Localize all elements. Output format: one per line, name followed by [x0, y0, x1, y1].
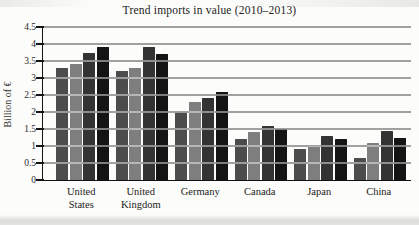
y-tick-label-3.5: 3.5	[10, 55, 36, 67]
bar-japan-2010	[294, 149, 306, 180]
y-tick-mark-2.5	[36, 94, 44, 96]
x-tick-label-line: United	[115, 185, 168, 198]
bar-united-kingdom-2012	[143, 47, 155, 180]
bar-china-2011	[367, 143, 379, 180]
bar-germany-2012	[202, 98, 214, 180]
bar-group-china	[354, 131, 407, 180]
bars-row	[43, 27, 411, 180]
bar-canada-2013	[275, 129, 287, 180]
x-tick-label-united-kingdom: UnitedKingdom	[115, 185, 168, 211]
x-tick-label-line: Germany	[174, 185, 227, 198]
x-axis-labels: UnitedStatesUnitedKingdomGermanyCanadaJa…	[42, 185, 410, 211]
x-tick-label-line: United	[55, 185, 108, 198]
bar-united-states-2013	[97, 47, 109, 180]
y-tick-label-0: 0	[10, 174, 36, 186]
y-tick-mark-0.5	[36, 162, 44, 164]
bar-china-2010	[354, 158, 366, 180]
bar-japan-2013	[335, 139, 347, 180]
x-tick-label-line: Canada	[234, 185, 287, 198]
bar-japan-2012	[321, 136, 333, 180]
y-tick-mark-0	[36, 179, 44, 181]
bar-group-japan	[294, 136, 347, 180]
y-tick-mark-3	[36, 77, 44, 79]
y-tick-mark-4.5	[36, 26, 44, 28]
x-tick-label-line: Japan	[293, 185, 346, 198]
x-tick-label-line: China	[353, 185, 406, 198]
bar-united-kingdom-2010	[116, 71, 128, 180]
bar-canada-2010	[235, 139, 247, 180]
y-tick-mark-1	[36, 145, 44, 147]
scan-artifact-bottom	[0, 215, 419, 225]
bar-group-canada	[235, 126, 288, 180]
bar-united-states-2010	[56, 68, 68, 180]
scanned-chart-page: Trend imports in value (2010–2013) Billi…	[0, 0, 419, 225]
y-tick-label-4.5: 4.5	[10, 21, 36, 33]
plot-area	[42, 27, 411, 181]
y-tick-label-0.5: 0.5	[10, 157, 36, 169]
x-tick-label-line: States	[55, 198, 108, 211]
bar-germany-2013	[216, 92, 228, 180]
x-tick-label-japan: Japan	[293, 185, 346, 211]
bar-china-2012	[381, 131, 393, 180]
y-tick-mark-4	[36, 43, 44, 45]
bar-united-kingdom-2013	[156, 54, 168, 180]
y-tick-label-1: 1	[10, 140, 36, 152]
x-tick-label-united-states: UnitedStates	[55, 185, 108, 211]
bar-group-germany	[175, 92, 228, 180]
y-tick-mark-2	[36, 111, 44, 113]
y-tick-label-2: 2	[10, 106, 36, 118]
bar-united-states-2012	[83, 53, 95, 181]
bar-group-united-states	[56, 47, 109, 180]
bar-united-states-2011	[70, 64, 82, 180]
y-tick-mark-3.5	[36, 60, 44, 62]
x-tick-label-germany: Germany	[174, 185, 227, 211]
y-tick-label-3: 3	[10, 72, 36, 84]
y-tick-mark-1.5	[36, 128, 44, 130]
bar-united-kingdom-2011	[129, 68, 141, 180]
chart-title: Trend imports in value (2010–2013)	[0, 4, 419, 16]
bar-canada-2012	[262, 126, 274, 180]
y-tick-label-4: 4	[10, 38, 36, 50]
bar-group-united-kingdom	[116, 47, 169, 180]
y-tick-label-1.5: 1.5	[10, 123, 36, 135]
y-tick-label-2.5: 2.5	[10, 89, 36, 101]
x-tick-label-canada: Canada	[234, 185, 287, 211]
bar-germany-2010	[175, 112, 187, 180]
x-tick-label-china: China	[353, 185, 406, 211]
bar-germany-2011	[189, 102, 201, 180]
bar-japan-2011	[308, 146, 320, 180]
bar-china-2013	[394, 138, 406, 181]
x-tick-label-line: Kingdom	[115, 198, 168, 211]
bar-canada-2011	[248, 132, 260, 180]
